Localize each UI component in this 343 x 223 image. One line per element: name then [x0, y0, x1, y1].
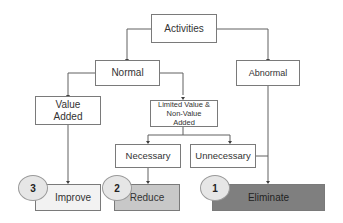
node-label: Activities [164, 23, 203, 35]
node-label: Eliminate [248, 192, 289, 204]
badge-eliminate: 1 [200, 175, 230, 201]
node-activities: Activities [151, 14, 217, 43]
node-label: Improve [55, 192, 91, 204]
badge-number: 2 [114, 183, 120, 194]
node-label: Limited Value & Non-Value Added [155, 100, 213, 127]
node-label: Value Added [44, 99, 92, 122]
node-limited-value: Limited Value & Non-Value Added [150, 100, 218, 127]
node-unnecessary: Unnecessary [190, 144, 256, 168]
node-abnormal: Abnormal [236, 60, 300, 86]
node-label: Necessary [126, 151, 171, 162]
node-label: Unnecessary [195, 151, 250, 162]
badge-reduce: 2 [102, 175, 132, 201]
node-necessary: Necessary [115, 144, 181, 168]
badge-improve: 3 [18, 175, 48, 201]
node-label: Abnormal [249, 68, 288, 78]
badge-number: 1 [212, 183, 218, 194]
node-value-added: Value Added [35, 96, 101, 125]
badge-number: 3 [30, 183, 36, 194]
node-label: Normal [111, 67, 143, 79]
node-normal: Normal [95, 60, 160, 86]
node-label: Reduce [130, 192, 164, 204]
